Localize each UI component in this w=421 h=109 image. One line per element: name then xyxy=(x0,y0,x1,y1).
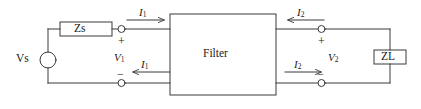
zl-label: ZL xyxy=(381,51,395,63)
source-label: Vs xyxy=(16,53,29,65)
port1-voltage-symbol: V xyxy=(114,51,121,63)
zs-label: Zs xyxy=(74,23,86,35)
port2-minus-sign: − xyxy=(317,68,324,80)
port1-current-top-subscript: 1 xyxy=(143,10,147,19)
port2-voltage-symbol: V xyxy=(328,51,335,63)
port1-current-bottom-label: I1 xyxy=(141,59,148,71)
port2-current-top-label: I2 xyxy=(297,7,304,19)
port1-minus-sign: − xyxy=(117,68,124,80)
port1-voltage-label: V1 xyxy=(114,52,124,64)
port2-current-top-subscript: 2 xyxy=(301,10,305,19)
port2-current-bottom-subscript: 2 xyxy=(298,62,302,71)
port2-plus-sign: + xyxy=(318,35,325,47)
port2-top-terminal xyxy=(318,26,325,33)
port2-current-bottom-label: I2 xyxy=(294,59,301,71)
circuit-diagram: Vs Zs Filter ZL + V1 − I1 I1 + V2 − I2 I… xyxy=(0,0,421,109)
voltage-source-symbol xyxy=(40,52,56,68)
port2-voltage-subscript: 2 xyxy=(335,55,339,64)
port1-current-top-label: I1 xyxy=(139,7,146,19)
port1-top-terminal xyxy=(118,26,125,33)
port1-current-bottom-subscript: 1 xyxy=(145,62,149,71)
filter-block-label: Filter xyxy=(203,48,228,60)
port1-voltage-subscript: 1 xyxy=(121,55,125,64)
zs-box xyxy=(60,22,112,36)
port1-plus-sign: + xyxy=(118,35,125,47)
port2-voltage-label: V2 xyxy=(328,52,338,64)
